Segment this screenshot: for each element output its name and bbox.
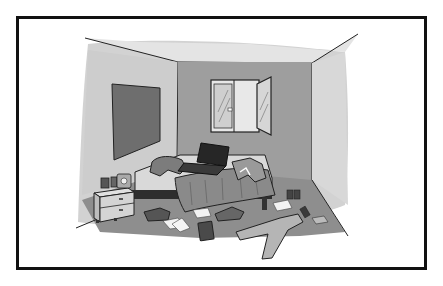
bed-leg: [262, 197, 267, 210]
bedroom-illustration: [0, 0, 443, 286]
cup: [111, 177, 117, 187]
right-wall: [312, 52, 348, 205]
window: [211, 77, 271, 135]
can: [294, 190, 300, 199]
cup: [101, 178, 109, 188]
book: [198, 221, 214, 241]
can: [287, 190, 293, 199]
